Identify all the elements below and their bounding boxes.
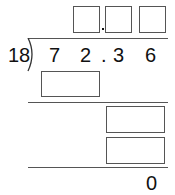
quotient-box-tenths[interactable] bbox=[105, 6, 132, 33]
quotient-box-hundredths[interactable] bbox=[139, 6, 166, 33]
step1-subtraction-line bbox=[28, 102, 168, 103]
final-remainder: 0 bbox=[146, 173, 157, 193]
quotient-decimal-point bbox=[102, 28, 104, 30]
dividend-digit-6: 6 bbox=[145, 45, 156, 65]
step2-remainder-box[interactable] bbox=[106, 106, 165, 133]
step1-product-box[interactable] bbox=[41, 71, 100, 97]
dividend-digit-7: 7 bbox=[49, 45, 60, 65]
dividend-digit-3: 3 bbox=[113, 45, 124, 65]
quotient-box-ones[interactable] bbox=[73, 6, 100, 33]
division-bar bbox=[28, 38, 168, 39]
dividend-decimal-point: . bbox=[101, 45, 107, 65]
division-bracket-icon bbox=[26, 38, 38, 72]
dividend-digit-2: 2 bbox=[80, 45, 91, 65]
step2-product-box[interactable] bbox=[106, 137, 165, 164]
step2-subtraction-line bbox=[28, 167, 168, 168]
